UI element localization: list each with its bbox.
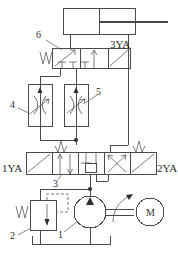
leader-line-4: [18, 108, 31, 114]
labels-layer: 6 3YA 4 5 1YA 2YA 3 2 1 M: [0, 0, 178, 258]
label-solenoid-3ya: 3YA: [110, 38, 130, 50]
label-motor: M: [146, 207, 155, 218]
hydraulic-circuit-diagram: 6 3YA 4 5 1YA 2YA 3 2 1 M: [0, 0, 178, 258]
label-item-6: 6: [36, 29, 41, 40]
leader-line-1: [64, 221, 78, 232]
label-item-3: 3: [53, 178, 58, 189]
leader-line-6: [46, 40, 62, 50]
label-item-4: 4: [10, 99, 15, 110]
label-item-1: 1: [58, 229, 63, 240]
label-item-2: 2: [10, 230, 15, 241]
label-solenoid-2ya: 2YA: [157, 162, 177, 174]
leader-line-2: [18, 228, 31, 235]
label-item-5: 5: [96, 86, 101, 97]
label-solenoid-1ya: 1YA: [2, 162, 22, 174]
leader-line-3: [58, 174, 62, 180]
